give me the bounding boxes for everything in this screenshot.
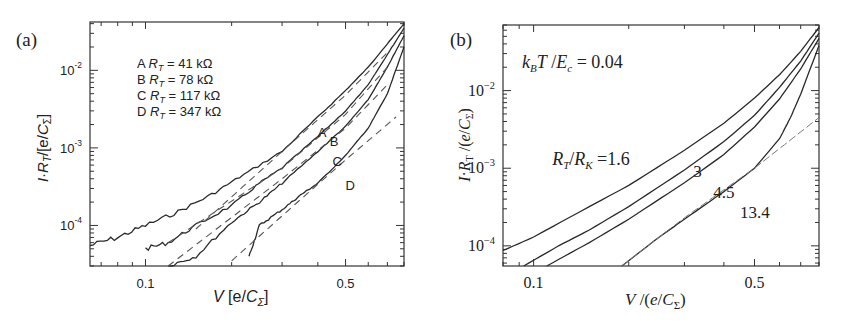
rr-ratio-label: RT/RK =1.6 bbox=[551, 149, 630, 171]
legend-a: A RT = 41 kΩB RT = 78 kΩC RT = 117 kΩD R… bbox=[137, 56, 222, 121]
y-tick-label: 10-2 bbox=[60, 60, 82, 78]
parameter-text: kBT /Ec = 0.04 bbox=[522, 52, 623, 74]
panel-label-a: (a) bbox=[16, 29, 37, 51]
y-tick-label: 10−2 bbox=[468, 80, 495, 99]
y-tick-label: 10-4 bbox=[60, 215, 82, 233]
curve-label-B: B bbox=[330, 134, 339, 149]
curve-label-4.5: 4.5 bbox=[713, 183, 734, 202]
curve-4.5 bbox=[547, 38, 819, 266]
panel-b: (b) 10−410−310−2 0.10.5 RT/RK =1.634.513… bbox=[450, 25, 819, 311]
curve-label-A: A bbox=[318, 125, 327, 140]
curve-label-D: D bbox=[346, 178, 355, 193]
panel-a: (a) 10-410-310-2 0.10.5 ABCD A RT = 41 k… bbox=[16, 22, 404, 308]
panel-label-b: (b) bbox=[450, 29, 472, 51]
x-axis-label-b: V /(e/CΣ) bbox=[625, 290, 686, 311]
curve-a-fit bbox=[196, 53, 388, 230]
x-tick-label: 0.5 bbox=[744, 274, 764, 291]
x-tick-label: 0.5 bbox=[337, 276, 355, 291]
y-axis-label-b: I·RT /(e/CΣ) bbox=[456, 108, 475, 183]
legend-item-a: A RT = 41 kΩ bbox=[137, 56, 213, 73]
y-axis-label-a: I·RT/[e/CΣ] bbox=[34, 114, 53, 182]
legend-item-c: C RT = 117 kΩ bbox=[137, 88, 221, 105]
x-tick-labels-b: 0.10.5 bbox=[524, 274, 765, 291]
y-tick-label: 10−4 bbox=[468, 235, 496, 254]
x-axis-label-a: V [e/CΣ] bbox=[213, 288, 269, 308]
y-tick-labels-a: 10-410-310-2 bbox=[60, 60, 82, 233]
figure: (a) 10-410-310-2 0.10.5 ABCD A RT = 41 k… bbox=[0, 0, 843, 330]
curve-labels-a: ABCD bbox=[318, 125, 355, 193]
curve-label-3: 3 bbox=[693, 162, 702, 181]
curve-13.4 bbox=[622, 46, 819, 266]
x-tick-label: 0.1 bbox=[136, 276, 154, 291]
legend-item-b: B RT = 78 kΩ bbox=[137, 72, 214, 89]
y-tick-label: 10-3 bbox=[60, 138, 82, 156]
curve-label-13.4: 13.4 bbox=[740, 203, 770, 222]
x-tick-label: 0.1 bbox=[524, 274, 544, 291]
curve-d-fit bbox=[232, 117, 396, 261]
curve-label-C: C bbox=[332, 154, 341, 169]
legend-item-d: D RT = 347 kΩ bbox=[137, 104, 222, 121]
